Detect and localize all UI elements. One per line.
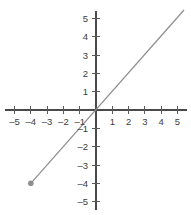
x-label--2: –2: [58, 116, 69, 127]
x-label--4: –4: [26, 116, 37, 127]
y-label-5: 5: [83, 13, 88, 24]
plot-series-group: [28, 10, 184, 186]
x-label-4: 4: [159, 116, 164, 127]
y-label--3: –3: [77, 160, 88, 171]
axes-group: [5, 11, 187, 210]
y-label-1: 1: [83, 86, 88, 97]
x-label-2: 2: [126, 116, 131, 127]
y-label--2: –2: [77, 141, 88, 152]
y-label-4: 4: [83, 31, 88, 42]
x-label--5: –5: [9, 116, 20, 127]
x-label-3: 3: [142, 116, 147, 127]
coordinate-plane-graph: –5 –4 –3 –2 –1 1 2 3 4 5 5 4 3 2 1 –1 –2…: [0, 0, 191, 215]
endpoint-dot-minus4-minus4: [28, 181, 33, 186]
y-label--1: –1: [77, 123, 88, 134]
x-label-5: 5: [175, 116, 180, 127]
y-label--4: –4: [77, 178, 88, 189]
y-label--5: –5: [77, 196, 88, 207]
line-y-equals-x: [31, 10, 184, 183]
y-label-3: 3: [83, 50, 88, 61]
x-axis-tick-labels: –5 –4 –3 –2 –1 1 2 3 4 5: [9, 116, 180, 127]
x-label-1: 1: [110, 116, 115, 127]
x-label--3: –3: [42, 116, 53, 127]
y-label-2: 2: [83, 68, 88, 79]
graph-canvas: –5 –4 –3 –2 –1 1 2 3 4 5 5 4 3 2 1 –1 –2…: [0, 0, 191, 215]
